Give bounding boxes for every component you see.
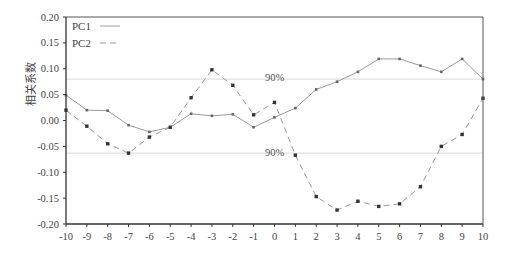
data-point-marker bbox=[85, 124, 88, 127]
y-tick-label: 0.20 bbox=[41, 12, 59, 23]
data-point-marker bbox=[294, 107, 297, 110]
data-point-marker bbox=[211, 115, 214, 118]
data-point-marker bbox=[336, 80, 339, 83]
data-point-marker bbox=[106, 109, 109, 112]
data-point-marker bbox=[460, 133, 463, 136]
x-tick-label: 9 bbox=[460, 231, 465, 242]
x-tick-label: 7 bbox=[418, 231, 423, 242]
data-point-marker bbox=[440, 71, 443, 74]
x-tick-label: 4 bbox=[355, 231, 361, 242]
lower-threshold-label: 90% bbox=[265, 147, 284, 158]
data-point-marker bbox=[127, 124, 130, 127]
plot-area: 0.200.150.100.050.00-0.05-0.10-0.15-0.20… bbox=[37, 12, 488, 243]
x-tick-label: -7 bbox=[124, 231, 133, 242]
data-point-marker bbox=[398, 58, 401, 61]
data-point-marker bbox=[86, 109, 89, 112]
x-tick-label: 1 bbox=[293, 231, 298, 242]
x-tick-label: 3 bbox=[334, 231, 339, 242]
data-point-marker bbox=[315, 195, 318, 198]
data-point-marker bbox=[315, 88, 318, 91]
data-point-marker bbox=[106, 142, 109, 145]
data-point-marker bbox=[127, 151, 130, 154]
upper-threshold-label: 90% bbox=[265, 72, 284, 83]
data-point-marker bbox=[377, 205, 380, 208]
x-tick-label: -1 bbox=[249, 231, 258, 242]
data-point-marker bbox=[294, 153, 297, 156]
y-tick-label: -0.05 bbox=[37, 141, 59, 152]
x-tick-label: -10 bbox=[59, 231, 73, 242]
line-chart: 0.200.150.100.050.00-0.05-0.10-0.15-0.20… bbox=[0, 0, 508, 256]
data-point-marker bbox=[148, 131, 151, 134]
y-tick-label: -0.20 bbox=[37, 219, 59, 230]
x-tick-label: 8 bbox=[439, 231, 444, 242]
x-tick-label: -6 bbox=[145, 231, 154, 242]
data-point-marker bbox=[273, 101, 276, 104]
y-tick-label: -0.15 bbox=[37, 193, 59, 204]
y-tick-label: 0.05 bbox=[41, 89, 59, 100]
x-tick-label: 6 bbox=[397, 231, 402, 242]
y-tick-label: 0.00 bbox=[41, 115, 59, 126]
y-tick-label: 0.15 bbox=[41, 37, 59, 48]
data-point-marker bbox=[419, 185, 422, 188]
x-tick-label: 2 bbox=[314, 231, 319, 242]
data-point-marker bbox=[210, 68, 213, 71]
x-tick-label: -9 bbox=[82, 231, 91, 242]
data-point-marker bbox=[190, 112, 193, 115]
data-point-marker bbox=[189, 96, 192, 99]
x-tick-label: -3 bbox=[208, 231, 217, 242]
x-tick-label: -4 bbox=[187, 231, 196, 242]
legend-label-pc2: PC2 bbox=[72, 37, 91, 49]
data-point-marker bbox=[440, 145, 443, 148]
x-tick-label: -5 bbox=[166, 231, 175, 242]
series-pc1-line bbox=[66, 59, 483, 132]
data-point-marker bbox=[231, 84, 234, 87]
data-point-marker bbox=[273, 116, 276, 119]
data-point-marker bbox=[232, 113, 235, 116]
data-point-marker bbox=[356, 200, 359, 203]
data-point-marker bbox=[398, 202, 401, 205]
data-point-marker bbox=[252, 113, 255, 116]
data-point-marker bbox=[419, 64, 422, 67]
data-point-marker bbox=[169, 126, 172, 129]
data-point-marker bbox=[148, 135, 151, 138]
data-point-marker bbox=[335, 208, 338, 211]
x-tick-label: -8 bbox=[103, 231, 112, 242]
x-tick-label: -2 bbox=[228, 231, 237, 242]
legend-label-pc1: PC1 bbox=[72, 20, 91, 32]
series-pc2-line bbox=[66, 70, 483, 210]
data-point-marker bbox=[377, 58, 380, 61]
data-point-marker bbox=[461, 58, 464, 61]
y-tick-label: 0.10 bbox=[41, 63, 59, 74]
data-point-marker bbox=[252, 126, 255, 129]
x-tick-label: 5 bbox=[376, 231, 381, 242]
data-point-marker bbox=[357, 71, 360, 74]
y-tick-label: -0.10 bbox=[37, 167, 59, 178]
y-axis-label: 相关系数 bbox=[22, 66, 38, 106]
x-tick-label: 0 bbox=[272, 231, 277, 242]
x-tick-label: 10 bbox=[478, 231, 489, 242]
